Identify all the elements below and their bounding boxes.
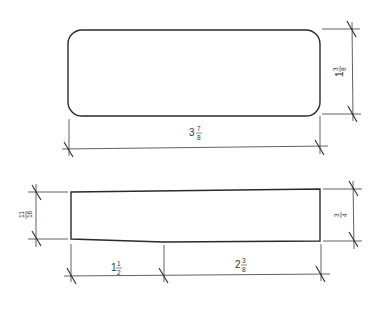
elevation-outline	[71, 189, 320, 242]
elevation-right-height-label: 3 4	[333, 212, 348, 218]
dim-whole: 3	[189, 127, 195, 138]
elevation-length-dimensions: 1 1 2 2 3 8	[64, 244, 330, 284]
dim-numerator: 3	[242, 257, 246, 264]
plan-width-label: 3 7 8	[189, 125, 202, 141]
dimension-line	[62, 146, 328, 149]
dim-numerator: 11	[18, 211, 25, 218]
dim-numerator: 1	[117, 260, 121, 267]
dim-numerator: 3	[333, 213, 340, 217]
tick-mark-icon	[32, 185, 41, 200]
dim-denominator: 8	[242, 266, 246, 273]
dim-whole: 2	[235, 259, 241, 270]
tick-mark-icon	[32, 231, 41, 246]
dimension-line	[64, 274, 330, 276]
dim-numerator: 3	[332, 67, 339, 71]
dim-denominator: 16	[26, 210, 33, 218]
plan-outline	[68, 30, 320, 116]
flat-length-label: 2 3 8	[235, 257, 247, 273]
tick-mark-icon	[64, 142, 73, 157]
elevation-left-height-label: 11 16	[18, 210, 33, 219]
plan-view: 3 7 8 1 3 8	[62, 21, 361, 157]
dim-denominator: 8	[340, 67, 347, 71]
dim-denominator: 4	[341, 213, 348, 217]
dim-denominator: 8	[197, 134, 201, 141]
plan-height-dimension: 1 3 8	[322, 21, 361, 122]
dimension-line	[352, 22, 353, 121]
dim-denominator: 2	[117, 269, 121, 276]
elevation-view: 11 16 3 4	[18, 181, 362, 284]
plan-height-label: 1 3 8	[332, 66, 347, 77]
technical-drawing: 3 7 8 1 3 8	[0, 0, 383, 309]
tick-mark-icon	[315, 140, 324, 155]
dim-numerator: 7	[197, 125, 201, 132]
taper-length-label: 1 1 2	[111, 260, 122, 276]
elevation-left-height-dimension: 11 16	[18, 184, 68, 247]
plan-width-dimension: 3 7 8	[62, 116, 328, 157]
elevation-right-height-dimension: 3 4	[323, 181, 362, 249]
